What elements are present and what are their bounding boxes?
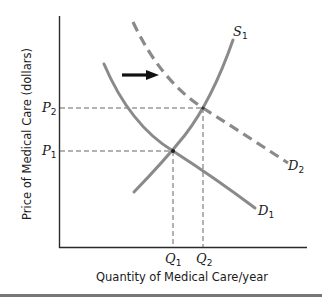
label-s1: S1 bbox=[233, 24, 248, 41]
label-q1: Q1 bbox=[165, 251, 181, 268]
equilibrium-point-2 bbox=[201, 106, 204, 109]
label-d1: D1 bbox=[257, 203, 274, 220]
label-d2: D2 bbox=[287, 158, 304, 175]
shift-arrow-icon bbox=[122, 70, 159, 80]
label-p2: P2 bbox=[41, 100, 56, 117]
x-axis-title: Quantity of Medical Care/year bbox=[96, 270, 268, 284]
equilibrium-point-1 bbox=[171, 149, 175, 153]
label-q2: Q2 bbox=[196, 251, 212, 268]
demand-curve-d1 bbox=[104, 64, 255, 208]
label-p1: P1 bbox=[41, 143, 56, 160]
y-axis-title: Price of Medical Care (dollars) bbox=[20, 48, 34, 220]
supply-demand-diagram: S1 D2 D1 P2 P1 Q1 Q2 Quantity of Medical… bbox=[0, 0, 322, 297]
